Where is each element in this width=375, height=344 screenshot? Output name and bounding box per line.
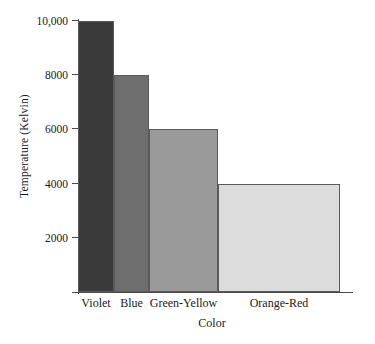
bar-green-yellow	[149, 129, 218, 292]
y-axis-title: Temperature (Kelvin)	[18, 66, 30, 226]
plot-area	[78, 21, 346, 292]
bar-orange-red	[218, 184, 340, 292]
y-tick-label-4000: 4000	[45, 176, 68, 192]
y-tick-label-2000: 2000	[45, 230, 68, 246]
y-tick-label-10000: 10,000	[36, 13, 68, 29]
x-axis-title: Color	[78, 316, 346, 331]
y-tick-label-6000: 6000	[45, 121, 68, 137]
bar-chart-figure: Temperature (Kelvin) 2000 4000 6000 8000…	[0, 0, 375, 344]
x-tick-label-orange-red: Orange-Red	[199, 296, 359, 311]
bar-blue	[114, 75, 149, 292]
y-tick-label-8000: 8000	[45, 67, 68, 83]
x-axis-line	[72, 292, 353, 293]
bar-violet	[78, 21, 114, 292]
